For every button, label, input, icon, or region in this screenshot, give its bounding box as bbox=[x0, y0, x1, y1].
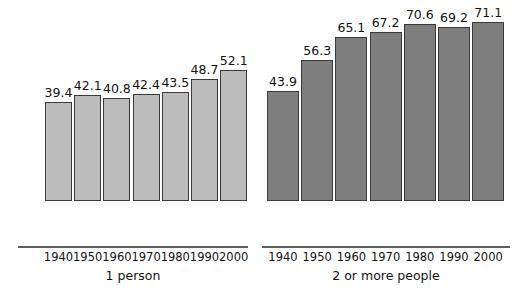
x-axis-tick-2-or-more-people-2000: 2000 bbox=[468, 252, 508, 264]
bar-rect-1-person-2000 bbox=[220, 70, 247, 201]
bar-1-person-2000: 52.1 bbox=[220, 70, 247, 201]
bar-rect-1-person-1960 bbox=[103, 98, 130, 201]
bar-rect-2-or-more-people-1940 bbox=[267, 91, 299, 201]
bar-value-label-1-person-1960: 40.8 bbox=[102, 83, 132, 96]
bar-value-label-2-or-more-people-1980: 70.6 bbox=[405, 9, 435, 22]
bar-value-label-1-person-1990: 48.7 bbox=[190, 64, 220, 77]
axis-baseline-2-or-more-people bbox=[262, 246, 510, 248]
bar-rect-1-person-1970 bbox=[133, 94, 160, 201]
bar-rect-2-or-more-people-2000 bbox=[472, 22, 504, 201]
bar-2-or-more-people-1970: 67.2 bbox=[370, 32, 402, 201]
bar-rect-2-or-more-people-1990 bbox=[438, 27, 470, 201]
bar-1-person-1940: 39.4 bbox=[45, 102, 72, 201]
bar-value-label-2-or-more-people-1970: 67.2 bbox=[371, 17, 401, 30]
bar-value-label-2-or-more-people-2000: 71.1 bbox=[473, 7, 503, 20]
bar-1-person-1960: 40.8 bbox=[103, 98, 130, 201]
bar-rect-1-person-1940 bbox=[45, 102, 72, 201]
group-label-1-person: 1 person bbox=[14, 270, 252, 283]
bar-value-label-1-person-1940: 39.4 bbox=[44, 87, 74, 100]
chart-group-2-or-more-people: 43.956.365.167.270.669.271.1 2 or more p… bbox=[258, 0, 514, 293]
bar-1-person-1980: 43.5 bbox=[162, 92, 189, 201]
bar-series-2-or-more-people: 43.956.365.167.270.669.271.1 bbox=[258, 0, 514, 247]
bar-rect-2-or-more-people-1980 bbox=[404, 24, 436, 201]
bar-value-label-2-or-more-people-1950: 56.3 bbox=[302, 45, 332, 58]
bar-1-person-1950: 42.1 bbox=[74, 95, 101, 201]
bar-value-label-1-person-1970: 42.4 bbox=[131, 79, 161, 92]
bar-2-or-more-people-1960: 65.1 bbox=[335, 37, 367, 201]
bar-rect-1-person-1950 bbox=[74, 95, 101, 201]
bar-rect-2-or-more-people-1960 bbox=[335, 37, 367, 201]
bar-value-label-1-person-2000: 52.1 bbox=[219, 55, 249, 68]
bar-value-label-2-or-more-people-1960: 65.1 bbox=[336, 22, 366, 35]
plot-area-2-or-more-people: 43.956.365.167.270.669.271.1 bbox=[258, 0, 514, 248]
axis-baseline-1-person bbox=[18, 246, 248, 248]
bar-rect-2-or-more-people-1950 bbox=[301, 60, 333, 201]
bar-rect-2-or-more-people-1970 bbox=[370, 32, 402, 201]
bar-chart: 39.442.140.842.443.548.752.1 1 person 19… bbox=[0, 0, 516, 293]
bar-series-1-person: 39.442.140.842.443.548.752.1 bbox=[14, 0, 252, 247]
bar-1-person-1990: 48.7 bbox=[191, 79, 218, 201]
x-axis-tick-1-person-2000: 2000 bbox=[216, 252, 251, 264]
plot-area-1-person: 39.442.140.842.443.548.752.1 bbox=[14, 0, 252, 248]
bar-2-or-more-people-1990: 69.2 bbox=[438, 27, 470, 201]
bar-rect-1-person-1980 bbox=[162, 92, 189, 201]
bar-2-or-more-people-1940: 43.9 bbox=[267, 91, 299, 201]
bar-2-or-more-people-1950: 56.3 bbox=[301, 60, 333, 201]
bar-value-label-2-or-more-people-1990: 69.2 bbox=[439, 12, 469, 25]
bar-value-label-1-person-1980: 43.5 bbox=[160, 77, 190, 90]
bar-value-label-2-or-more-people-1940: 43.9 bbox=[268, 76, 298, 89]
chart-group-1-person: 39.442.140.842.443.548.752.1 1 person 19… bbox=[14, 0, 252, 293]
bar-2-or-more-people-2000: 71.1 bbox=[472, 22, 504, 201]
bar-2-or-more-people-1980: 70.6 bbox=[404, 24, 436, 201]
bar-value-label-1-person-1950: 42.1 bbox=[73, 80, 103, 93]
bar-rect-1-person-1990 bbox=[191, 79, 218, 201]
group-label-2-or-more-people: 2 or more people bbox=[258, 270, 514, 283]
bar-1-person-1970: 42.4 bbox=[133, 94, 160, 201]
